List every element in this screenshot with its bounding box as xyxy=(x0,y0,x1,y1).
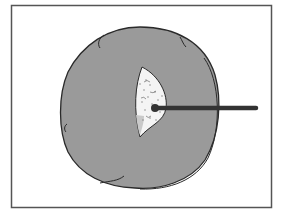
rod-tip xyxy=(151,104,159,112)
illustration xyxy=(0,0,285,214)
